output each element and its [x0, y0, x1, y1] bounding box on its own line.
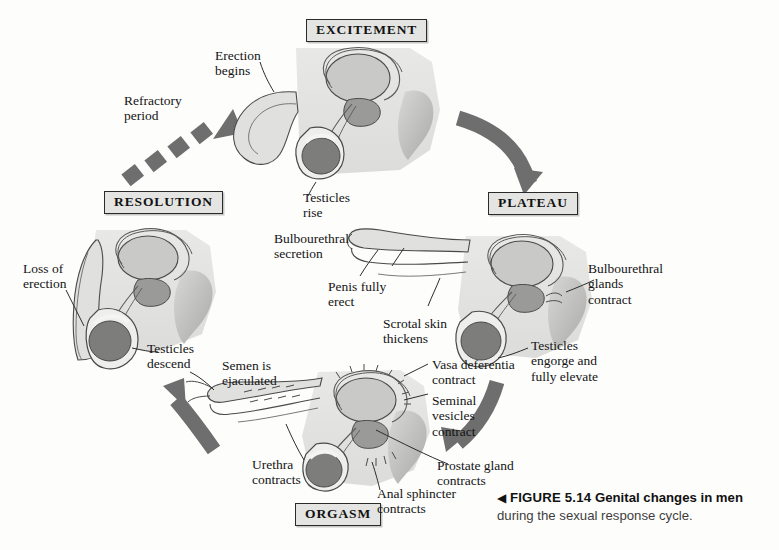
caption-lead-text: Genital changes in men — [595, 490, 743, 505]
callout-testicles-rise: Testicles rise — [303, 190, 350, 221]
callout-testicles-engorge-fully-elevate: Testicles engorge and fully elevate — [531, 338, 598, 384]
callout-anal-sphincter-contracts: Anal sphincter contracts — [377, 486, 456, 517]
stage-label-plateau[interactable]: PLATEAU — [488, 192, 578, 215]
caption-left-triangle-icon: ◀ — [497, 491, 506, 505]
callout-vasa-deferentia-contract: Vasa deferentia contract — [432, 357, 515, 388]
illustration-excitement — [234, 48, 440, 196]
stage-label-orgasm[interactable]: ORGASM — [295, 503, 381, 526]
callout-erection-begins: Erection begins — [215, 48, 261, 79]
callout-loss-of-erection: Loss of erection — [23, 261, 66, 292]
callout-testicles-descend: Testicles descend — [147, 341, 194, 372]
callout-refractory-period: Refractory period — [124, 93, 182, 124]
cycle-arrow-excitement-to-plateau — [458, 118, 543, 195]
callout-seminal-vesicles-contract: Seminal vesicles contract — [432, 393, 476, 439]
caption-figure-number: FIGURE 5.14 — [510, 490, 591, 505]
callout-bulbourethral-glands-contract: Bulbourethral glands contract — [588, 261, 663, 307]
callout-urethra-contracts: Urethra contracts — [252, 457, 301, 488]
figure-genital-changes-in-men: EXCITEMENT PLATEAU ORGASM RESOLUTION Ere… — [0, 0, 779, 550]
cycle-arrow-orgasm-to-resolution — [163, 378, 214, 450]
callout-penis-fully-erect: Penis fully erect — [328, 279, 386, 310]
caption-rest-text: during the sexual response cycle. — [497, 508, 693, 523]
callout-semen-is-ejaculated: Semen is ejaculated — [222, 358, 277, 389]
callout-prostate-gland-contracts: Prostate gland contracts — [437, 458, 514, 489]
callout-bulbourethral-secretion: Bulbourethral secretion — [274, 231, 349, 262]
stage-label-resolution[interactable]: RESOLUTION — [104, 191, 223, 214]
figure-caption: ◀ FIGURE 5.14 Genital changes in men dur… — [497, 489, 769, 524]
stage-label-excitement[interactable]: EXCITEMENT — [306, 19, 427, 42]
callout-scrotal-skin-thickens: Scrotal skin thickens — [383, 316, 447, 347]
